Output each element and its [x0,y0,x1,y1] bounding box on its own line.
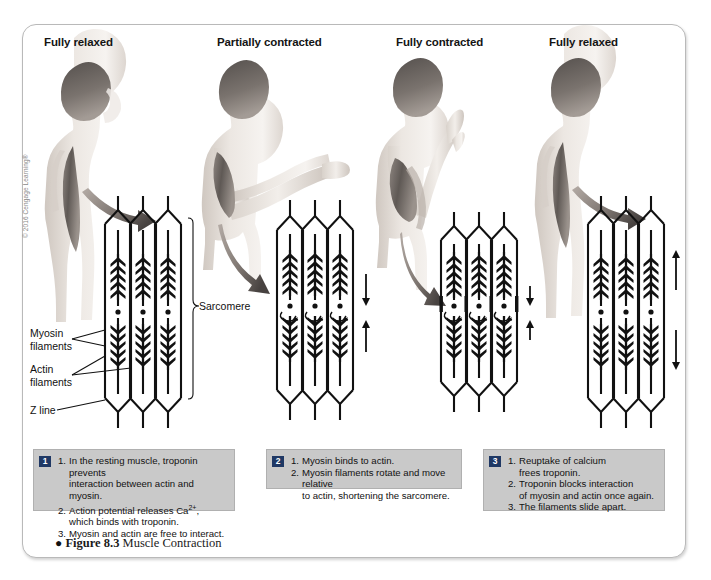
caption-badge-2: 2 [272,456,284,467]
caption-item: which binds with troponin. [58,516,228,528]
caption-item: frees troponin. [508,467,658,479]
caption-item: 3.The filaments slide apart. [508,501,658,513]
caption-list-1: 1.In the resting muscle, troponin preven… [58,455,228,539]
caption-box-3: 3 1.Reuptake of calcium frees troponin. … [483,449,665,511]
caption-item: 1.Reuptake of calcium [508,455,658,467]
label-actin-filaments: Actin filaments [30,363,72,388]
label-sarcomere: Sarcomere [199,300,250,313]
panel-title-4: Fully relaxed [549,36,618,48]
bullet-icon: ● [55,536,62,550]
caption-list-2: 1.Myosin binds to actin. 2.Myosin filame… [291,455,455,501]
panel-title-3: Fully contracted [396,36,483,48]
caption-item: interaction between actin and myosin. [58,478,228,501]
caption-item: 2.Myosin filaments rotate and move relat… [291,467,455,490]
caption-list-3: 1.Reuptake of calcium frees troponin. 2.… [508,455,658,513]
caption-item: 2.Action potential releases Ca2+, [58,501,228,516]
caption-item: to actin, shortening the sarcomere. [291,490,455,502]
caption-badge-3: 3 [489,456,501,467]
calcium-ion-text: Action potential releases Ca2+, [69,505,199,516]
caption-item: 2.Troponin blocks interaction [508,478,658,490]
label-z-line: Z line [30,404,56,417]
label-myosin-filaments: Myosin filaments [30,327,72,352]
panel-title-1: Fully relaxed [44,36,113,48]
caption-item: of myosin and actin once again. [508,490,658,502]
caption-item: 1.Myosin binds to actin. [291,455,455,467]
figure-caption: ● Figure 8.3 Muscle Contraction [55,536,222,551]
caption-badge-1: 1 [39,456,51,467]
caption-box-1: 1 1.In the resting muscle, troponin prev… [33,449,235,511]
panel-title-2: Partially contracted [217,36,322,48]
caption-item: 1.In the resting muscle, troponin preven… [58,455,228,478]
figure-title: Muscle Contraction [123,536,222,550]
figure-number: Figure 8.3 [65,536,119,550]
copyright-notice: © 2016 Cengage Learning® [22,154,29,238]
caption-box-2: 2 1.Myosin binds to actin. 2.Myosin fila… [266,449,462,489]
